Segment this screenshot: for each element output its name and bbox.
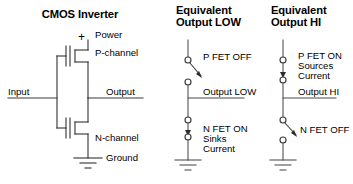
- power-label: Power: [95, 29, 123, 40]
- hi-bottom-switch-upper-terminal: [280, 117, 286, 123]
- input-label: Input: [8, 86, 30, 97]
- panel-title-cmos-inverter: CMOS Inverter: [42, 8, 119, 20]
- hi-top-switch-upper-terminal: [280, 57, 286, 63]
- cmos-inverter-figure: CMOS Inverter Equivalent Output LOW Equi…: [0, 0, 353, 184]
- panel-title-output-low-line2: Output LOW: [176, 16, 241, 28]
- hi-output-label: Output HI: [298, 86, 339, 97]
- low-top-switch-upper-terminal: [185, 57, 191, 63]
- ground-label: Ground: [106, 152, 138, 163]
- low-bottom-switch-label-line3: Current: [203, 143, 235, 154]
- low-top-switch-label: P FET OFF: [203, 51, 252, 62]
- low-output-label: Output LOW: [203, 86, 257, 97]
- low-top-switch-lower-terminal: [185, 79, 191, 85]
- low-bottom-switch-upper-terminal: [185, 117, 191, 123]
- p-channel-label: P-channel: [95, 47, 138, 58]
- cmos-inverter-schematic: + Power P-channel Input Output N-channel…: [8, 29, 143, 168]
- panel-title-output-low-line1: Equivalent: [176, 4, 232, 16]
- low-top-switch-arrowhead: [196, 71, 202, 78]
- hi-top-switch-label-line3: Current: [298, 70, 330, 81]
- low-bottom-switch-lower-terminal: [185, 134, 191, 140]
- power-plus-sign: +: [78, 30, 85, 44]
- equivalent-output-low-schematic: P FET OFF Output LOW N FET ON Sinks Curr…: [175, 40, 257, 170]
- equivalent-output-hi-schematic: P FET ON Sources Current Output HI N FET…: [270, 40, 350, 170]
- hi-bottom-switch-label: N FET OFF: [300, 124, 350, 135]
- hi-top-switch-lower-terminal: [280, 77, 286, 83]
- diagram-canvas: CMOS Inverter Equivalent Output LOW Equi…: [0, 0, 353, 184]
- panel-title-output-hi-line2: Output HI: [271, 16, 321, 28]
- hi-bottom-switch-lower-terminal: [280, 137, 286, 143]
- output-label: Output: [106, 86, 135, 97]
- panel-title-output-hi-line1: Equivalent: [271, 4, 327, 16]
- n-channel-label: N-channel: [95, 132, 139, 143]
